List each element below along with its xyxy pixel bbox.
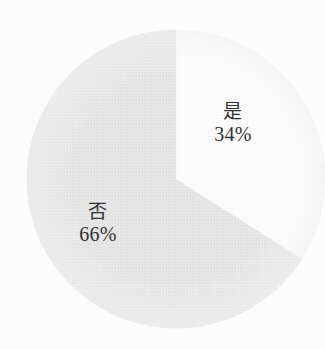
pie-label-no: 否 66% [61, 200, 135, 247]
pie-label-no-category: 否 [61, 200, 135, 222]
pie-label-yes: 是 34% [196, 100, 270, 147]
pie-chart-figure: 是 34% 否 66% [0, 0, 325, 349]
pie-chart-graphic [0, 0, 325, 349]
pie-label-yes-category: 是 [196, 100, 270, 122]
pie-label-no-percent: 66% [61, 223, 135, 247]
pie-vignette [27, 30, 325, 328]
pie-label-yes-percent: 34% [196, 123, 270, 147]
